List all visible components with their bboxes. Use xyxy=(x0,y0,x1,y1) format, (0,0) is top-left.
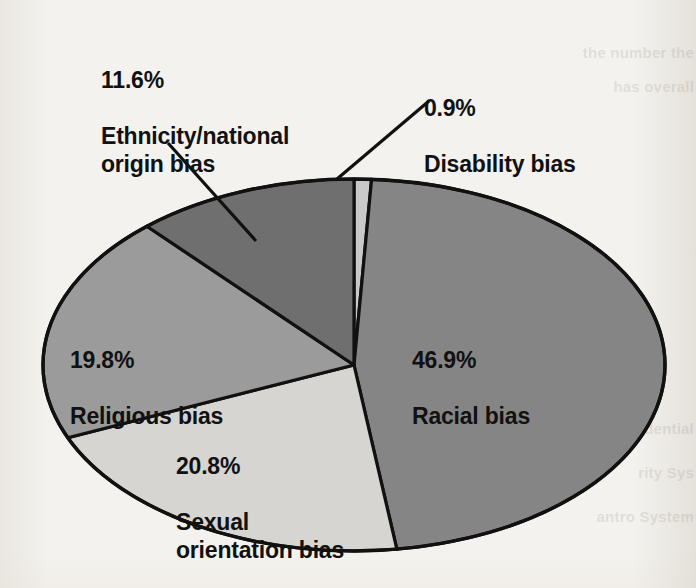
slice-percent-ethnicity: 11.6% xyxy=(101,66,289,94)
slice-name-ethnicity: Ethnicity/national origin bias xyxy=(101,122,289,178)
slice-label-sexual-orientation: 20.8% Sexual orientation bias xyxy=(176,424,344,588)
slice-name-sexual-orientation: Sexual orientation bias xyxy=(176,508,344,564)
slice-label-ethnicity: 11.6% Ethnicity/national origin bias xyxy=(101,38,289,206)
slice-percent-religious: 19.8% xyxy=(70,346,223,374)
slice-name-racial: Racial bias xyxy=(412,402,530,430)
pie-chart-figure: the number the has overall dential rity … xyxy=(0,0,696,588)
slice-percent-racial: 46.9% xyxy=(412,346,530,374)
slice-percent-sexual-orientation: 20.8% xyxy=(176,452,344,480)
slice-percent-disability: 0.9% xyxy=(424,94,576,122)
leader-line-disability xyxy=(337,101,429,179)
slice-label-racial: 46.9% Racial bias xyxy=(412,318,530,458)
slice-label-disability: 0.9% Disability bias xyxy=(424,66,576,206)
slice-name-disability: Disability bias xyxy=(424,150,576,178)
